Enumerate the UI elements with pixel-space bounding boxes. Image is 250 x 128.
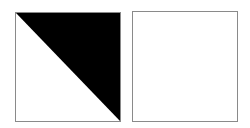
left-square-half-filled: [15, 12, 121, 122]
diagonal-triangle-fill: [16, 13, 120, 121]
diagram-canvas: [0, 0, 250, 128]
right-square-empty: [132, 11, 238, 122]
